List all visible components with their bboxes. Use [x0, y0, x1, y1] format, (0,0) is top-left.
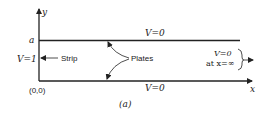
strip-label: Strip: [61, 54, 78, 63]
y-axis-label: y: [41, 7, 48, 17]
infinity-potential-label: V=0: [214, 49, 232, 58]
bottom-plate-potential-label: V=0: [145, 83, 165, 93]
plates-pointer-bottom: [107, 59, 129, 79]
figure-caption: (a): [119, 99, 132, 109]
infinity-condition-label: at x=∞: [206, 59, 234, 68]
infinity-brace: [238, 49, 244, 70]
plates-label: Plates: [131, 54, 153, 63]
top-plate-potential-label: V=0: [145, 28, 165, 38]
origin-label: (0,0): [29, 86, 46, 95]
strip-potential-label: V=1: [17, 54, 37, 64]
height-label: a: [29, 35, 34, 45]
plates-pointer-top: [108, 42, 129, 58]
potential-boundary-diagram: y a V=0 x V=0 (0,0) V=1 Strip Plates V=0…: [0, 0, 269, 118]
x-axis-label: x: [250, 84, 255, 94]
